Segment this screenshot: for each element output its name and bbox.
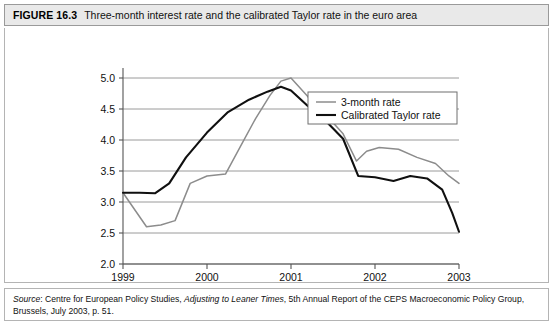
line-chart: 2.02.53.03.54.04.55.0 199920002001200220… [5, 28, 550, 283]
svg-text:2001: 2001 [279, 271, 303, 283]
svg-text:Calibrated Taylor rate: Calibrated Taylor rate [341, 109, 441, 121]
source-text: Source: Centre for European Policy Studi… [13, 294, 540, 317]
svg-text:3-month rate: 3-month rate [341, 96, 401, 108]
x-axis [123, 264, 459, 269]
svg-text:2003: 2003 [447, 271, 471, 283]
source-label: Source [13, 294, 40, 304]
svg-text:2000: 2000 [195, 271, 219, 283]
source-bar: Source: Centre for European Policy Studi… [4, 288, 549, 321]
svg-text:2.0: 2.0 [100, 258, 115, 270]
svg-text:2.5: 2.5 [100, 227, 115, 239]
figure-title-bar: FIGURE 16.3 Three-month interest rate an… [4, 4, 549, 26]
svg-text:4.0: 4.0 [100, 134, 115, 146]
figure-number: FIGURE 16.3 [13, 9, 77, 21]
svg-text:4.5: 4.5 [100, 103, 115, 115]
chart-panel: 2.02.53.03.54.04.55.0 199920002001200220… [4, 28, 549, 283]
svg-text:2002: 2002 [363, 271, 387, 283]
svg-text:1999: 1999 [111, 271, 135, 283]
svg-text:3.0: 3.0 [100, 196, 115, 208]
svg-text:3.5: 3.5 [100, 165, 115, 177]
source-title-italic: Adjusting to Leaner Times [184, 294, 284, 304]
y-tick-labels: 2.02.53.03.54.04.55.0 [100, 72, 115, 270]
source-part1: Centre for European Policy Studies, [45, 294, 184, 304]
x-tick-labels: 19992000200120022003 [111, 271, 471, 283]
chart-legend: 3-month rateCalibrated Taylor rate [308, 92, 457, 124]
figure-container: FIGURE 16.3 Three-month interest rate an… [0, 0, 553, 325]
figure-caption: Three-month interest rate and the calibr… [84, 9, 417, 21]
svg-text:5.0: 5.0 [100, 72, 115, 84]
y-axis [119, 68, 123, 264]
